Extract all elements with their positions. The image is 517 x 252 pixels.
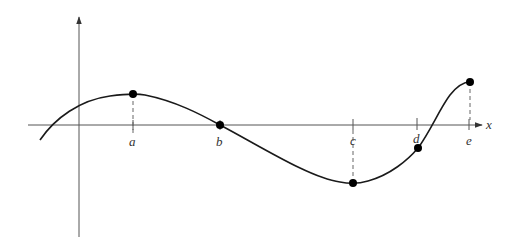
function-curve bbox=[40, 82, 470, 183]
label-d: d bbox=[413, 131, 420, 146]
function-graph: x a b c d e bbox=[0, 0, 517, 252]
label-e: e bbox=[466, 133, 472, 148]
label-a: a bbox=[129, 134, 136, 149]
x-axis-label: x bbox=[485, 117, 492, 132]
point-b bbox=[216, 121, 224, 129]
point-e bbox=[466, 78, 474, 86]
label-b: b bbox=[216, 134, 223, 149]
point-a bbox=[129, 90, 137, 98]
point-c bbox=[349, 179, 357, 187]
label-c: c bbox=[350, 133, 356, 148]
